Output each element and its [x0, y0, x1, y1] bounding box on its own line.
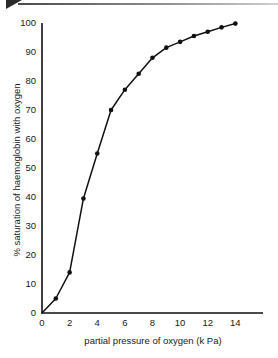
curve-line: [42, 24, 235, 313]
figure-container: 0102030405060708090100 02468101214 parti…: [0, 0, 278, 358]
x-tick-label: 12: [202, 317, 213, 328]
y-tick-label: 60: [25, 133, 36, 144]
axis-lines: [42, 23, 263, 313]
data-point-marker: [109, 108, 114, 113]
y-axis-title: % saturation of haemoglobin with oxygen: [11, 83, 22, 256]
y-tick-label: 100: [20, 17, 36, 28]
y-tick-label: 80: [25, 75, 36, 86]
y-tick-label: 50: [25, 162, 36, 173]
y-tick-label: 90: [25, 46, 36, 57]
data-point-marker: [192, 34, 197, 39]
data-point-markers: [54, 21, 238, 301]
data-point-marker: [205, 29, 210, 34]
data-point-marker: [233, 21, 238, 26]
data-point-marker: [67, 270, 72, 275]
y-tick-label: 0: [31, 307, 36, 318]
x-tick-label: 10: [175, 317, 186, 328]
x-axis-tick-labels: 02468101214: [39, 317, 240, 328]
data-point-marker: [178, 40, 183, 45]
data-point-marker: [95, 151, 100, 156]
y-tick-label: 20: [25, 249, 36, 260]
y-tick-label: 10: [25, 278, 36, 289]
data-point-marker: [219, 25, 224, 30]
x-tick-label: 4: [95, 317, 100, 328]
x-tick-label: 8: [150, 317, 155, 328]
data-point-marker: [136, 71, 141, 76]
data-series-group: [42, 21, 238, 313]
data-point-marker: [150, 56, 155, 61]
oxygen-dissociation-chart: 0102030405060708090100 02468101214 parti…: [0, 0, 278, 358]
y-tick-label: 70: [25, 104, 36, 115]
y-tick-label: 30: [25, 220, 36, 231]
chart-svg: 0102030405060708090100 02468101214 parti…: [0, 0, 278, 358]
y-axis-tick-labels: 0102030405060708090100: [20, 17, 36, 318]
data-point-marker: [81, 196, 86, 201]
data-point-marker: [164, 45, 169, 50]
x-tick-label: 0: [39, 317, 44, 328]
x-tick-label: 2: [67, 317, 72, 328]
data-point-marker: [123, 87, 128, 92]
x-tick-label: 14: [230, 317, 241, 328]
x-tick-label: 6: [122, 317, 127, 328]
x-axis-title: partial pressure of oxygen (k Pa): [84, 335, 221, 346]
axes-group: [42, 23, 263, 313]
data-point-marker: [54, 296, 59, 301]
y-tick-label: 40: [25, 191, 36, 202]
